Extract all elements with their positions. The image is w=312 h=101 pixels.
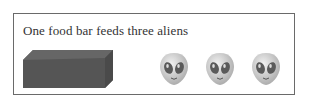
food-bar-icon xyxy=(23,50,115,88)
alien-icon xyxy=(159,52,189,86)
alien-icon xyxy=(205,52,235,86)
diagram-frame: One food bar feeds three aliens xyxy=(13,13,295,95)
alien-icon xyxy=(251,52,281,86)
caption: One food bar feeds three aliens xyxy=(23,23,188,39)
